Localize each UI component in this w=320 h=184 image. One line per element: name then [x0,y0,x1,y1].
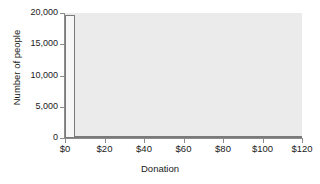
x-tick-label: $100 [252,144,273,154]
x-tick-label: $120 [291,144,312,154]
y-tick-mark [60,13,64,14]
y-tick-label: 15,000 [30,39,58,48]
x-tick-label: $40 [136,144,152,154]
x-axis-title: Donation [0,163,320,174]
y-tick-label: 10,000 [30,71,58,80]
histogram-chart: 05,00010,00015,00020,000 $0$20$40$60$80$… [0,0,320,184]
y-tick-label: 0 [53,133,58,142]
y-axis-title: Number of people [11,0,22,138]
x-tick-label: $20 [97,144,113,154]
y-tick-mark [60,138,64,139]
y-tick-mark [60,44,64,45]
y-tick-mark [60,107,64,108]
x-tick-label: $80 [215,144,231,154]
bars-layer [65,13,302,138]
y-axis-line [64,13,65,139]
histogram-bar [65,15,75,138]
y-tick-mark [60,76,64,77]
plot-area [65,13,302,138]
y-tick-label: 20,000 [30,8,58,17]
y-tick-label: 5,000 [35,102,58,111]
x-tick-label: $60 [176,144,192,154]
x-tick-label: $0 [60,144,71,154]
